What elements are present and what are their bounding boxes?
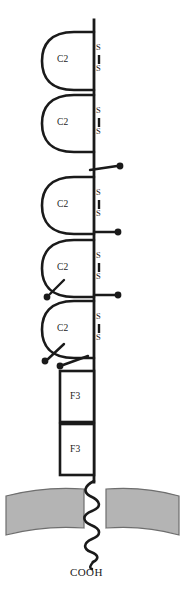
transmembrane-coil (84, 481, 99, 562)
diagram-canvas: C2 C2 C2 C2 C2 S S S S S S S S S S F3 F3… (0, 0, 185, 590)
sulfur-label-5-lower: S (96, 332, 101, 342)
membrane-leaflet-right (106, 488, 179, 535)
glyco-ball-1 (117, 163, 124, 170)
sulfur-label-1-lower: S (96, 63, 101, 73)
glyco-ball-3 (115, 292, 122, 299)
c-terminus-label: COOH (70, 566, 103, 578)
sulfur-label-4-lower: S (96, 271, 101, 281)
sulfur-label-1-upper: S (96, 42, 101, 52)
ig-domain-label-2: C2 (57, 117, 69, 127)
ig-domain-label-4: C2 (57, 262, 69, 272)
glyco-ball-5 (42, 358, 49, 365)
glyco-ball-2 (115, 229, 122, 236)
sulfur-label-5-upper: S (96, 311, 101, 321)
glycosylation-site-4 (44, 280, 64, 300)
glyco-ball-6 (57, 363, 64, 370)
glyco-stem-4 (50, 280, 64, 294)
glycosylation-site-5 (42, 344, 64, 364)
glycosylation-sites (42, 163, 124, 370)
fn3-domain-label-1: F3 (70, 391, 80, 401)
glyco-ball-4 (44, 294, 51, 301)
ig-domain-loops (42, 32, 94, 358)
ig-domain-label-3: C2 (57, 199, 69, 209)
sulfur-label-2-lower: S (96, 126, 101, 136)
glycosylation-site-2 (94, 229, 121, 236)
sulfur-label-4-upper: S (96, 250, 101, 260)
sulfur-label-2-upper: S (96, 105, 101, 115)
ig-domain-label-1: C2 (57, 54, 69, 64)
sulfur-label-3-upper: S (96, 187, 101, 197)
membrane-leaflet-left (6, 488, 84, 535)
sulfur-label-3-lower: S (96, 208, 101, 218)
fn3-domain-boxes (60, 371, 94, 475)
ig-domain-label-5: C2 (57, 323, 69, 333)
fn3-domain-label-2: F3 (70, 444, 80, 454)
glycosylation-site-3 (94, 292, 121, 299)
protein-topology-svg (0, 0, 185, 590)
